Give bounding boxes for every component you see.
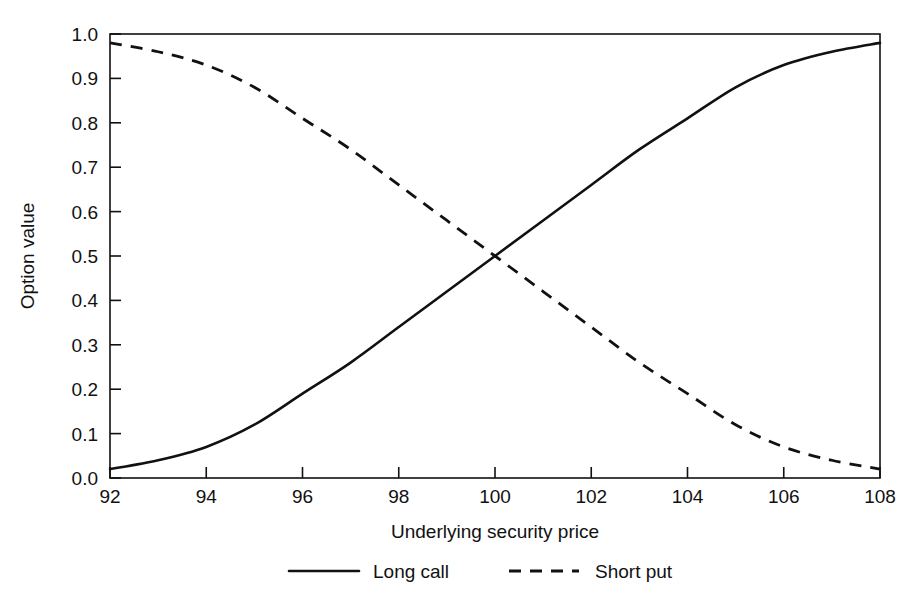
- x-tick-label-108: 108: [864, 486, 896, 507]
- y-tick-label-0.6: 0.6: [72, 202, 98, 223]
- x-tick-label-98: 98: [388, 486, 409, 507]
- legend-label-long-call: Long call: [373, 561, 449, 582]
- x-axis-title: Underlying security price: [391, 521, 599, 542]
- y-tick-label-0.0: 0.0: [72, 468, 98, 489]
- x-tick-label-92: 92: [99, 486, 120, 507]
- x-tick-label-100: 100: [479, 486, 511, 507]
- y-tick-label-0.4: 0.4: [72, 290, 99, 311]
- y-tick-label-0.8: 0.8: [72, 113, 98, 134]
- y-tick-label-0.1: 0.1: [72, 424, 98, 445]
- x-tick-label-94: 94: [196, 486, 218, 507]
- y-tick-label-0.9: 0.9: [72, 68, 98, 89]
- x-tick-label-106: 106: [768, 486, 800, 507]
- x-tick-label-104: 104: [672, 486, 704, 507]
- y-tick-label-0.3: 0.3: [72, 335, 98, 356]
- y-tick-label-0.5: 0.5: [72, 246, 98, 267]
- chart-background: [0, 0, 917, 610]
- option-value-line-chart: 0.00.10.20.30.40.50.60.70.80.91.0 929496…: [0, 0, 917, 610]
- y-tick-label-0.2: 0.2: [72, 379, 98, 400]
- x-tick-label-102: 102: [575, 486, 607, 507]
- legend-label-short-put: Short put: [595, 561, 673, 582]
- y-tick-label-0.7: 0.7: [72, 157, 98, 178]
- x-tick-label-96: 96: [292, 486, 313, 507]
- y-axis-title: Option value: [17, 203, 38, 310]
- y-tick-label-1.0: 1.0: [72, 24, 98, 45]
- chart-figure: 0.00.10.20.30.40.50.60.70.80.91.0 929496…: [0, 0, 917, 610]
